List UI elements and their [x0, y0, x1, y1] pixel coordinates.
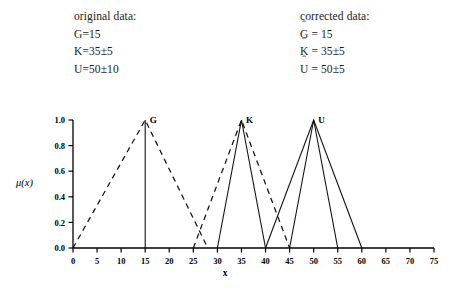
curve-label-g: G [150, 115, 157, 125]
x-tick-label-55: 55 [333, 256, 342, 266]
series-path-3 [217, 120, 265, 248]
x-tick-label-65: 65 [382, 256, 391, 266]
x-axis-label: x [223, 268, 228, 278]
x-tick-label-25: 25 [189, 256, 198, 266]
membership-function-plot: 0510152025303540455055606570750.00.20.40… [0, 0, 456, 300]
x-tick-label-5: 5 [95, 256, 99, 266]
x-tick-label-60: 60 [358, 256, 367, 266]
plot-annotations-group: GKU [150, 115, 325, 125]
y-tick-label-0.2: 0.2 [54, 218, 65, 228]
series-path-5 [290, 120, 338, 248]
x-tick-label-20: 20 [165, 256, 174, 266]
y-tick-label-0.0: 0.0 [54, 243, 65, 253]
curve-label-k: K [246, 115, 253, 125]
x-tick-label-75: 75 [430, 256, 439, 266]
curve-label-u: U [318, 115, 325, 125]
series-path-2 [193, 120, 289, 248]
plot-axes-group [69, 120, 435, 253]
y-tick-label-0.8: 0.8 [54, 141, 65, 151]
x-tick-label-30: 30 [213, 256, 222, 266]
x-tick-label-15: 15 [141, 256, 150, 266]
x-tick-label-35: 35 [237, 256, 246, 266]
figure-root: original data: G=15 K=35±5 U=50±10 corre… [0, 0, 456, 300]
y-axis-label: μ(x) [15, 177, 33, 189]
series-path-4 [266, 120, 362, 248]
x-tick-label-70: 70 [406, 256, 415, 266]
y-tick-label-1.0: 1.0 [54, 115, 65, 125]
x-tick-label-50: 50 [309, 256, 318, 266]
series-path-0 [73, 120, 208, 248]
plot-curves-group [73, 120, 362, 248]
plot-tick-labels-group: 0510152025303540455055606570750.00.20.40… [54, 115, 438, 265]
x-tick-label-45: 45 [285, 256, 294, 266]
y-tick-label-0.4: 0.4 [54, 192, 65, 202]
x-tick-label-0: 0 [71, 256, 75, 266]
x-tick-label-40: 40 [261, 256, 270, 266]
y-tick-label-0.6: 0.6 [54, 166, 65, 176]
x-tick-label-10: 10 [117, 256, 126, 266]
